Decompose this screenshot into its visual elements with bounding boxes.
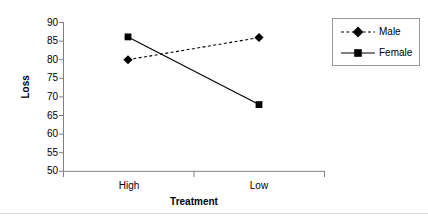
diamond-marker-icon: [353, 27, 364, 38]
legend-key-female: [339, 43, 377, 63]
chart-legend: Male Female: [332, 18, 420, 66]
x-axis-title: Treatment: [134, 196, 254, 207]
legend-entry-female[interactable]: Female: [333, 43, 421, 63]
legend-key-male: [339, 22, 377, 42]
interaction-plot-figure: Loss 90 85 80 75 70 65 60 55 50 High Low…: [0, 0, 428, 221]
x-tick-label-high: High: [99, 180, 159, 191]
square-marker-icon: [354, 49, 362, 57]
legend-entry-male[interactable]: Male: [333, 22, 421, 42]
bottom-divider: [0, 213, 428, 214]
legend-label-male: Male: [379, 26, 401, 37]
legend-label-female: Female: [379, 47, 412, 58]
x-tick-label-low: Low: [229, 180, 289, 191]
